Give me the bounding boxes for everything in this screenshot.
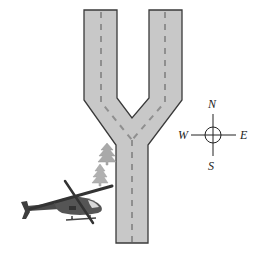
compass-north-label: N	[207, 97, 217, 111]
tree-icon	[92, 164, 108, 186]
compass-rose: N W E S	[178, 97, 248, 173]
helicopter-icon	[21, 181, 112, 223]
compass-east-label: E	[239, 128, 248, 142]
tree-icon	[98, 143, 116, 165]
road-diagram: N W E S	[0, 0, 263, 259]
compass-west-label: W	[178, 128, 189, 142]
compass-south-label: S	[208, 159, 214, 173]
